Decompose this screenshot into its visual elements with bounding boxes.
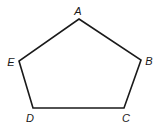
diagram-canvas: A B C D E (0, 0, 159, 126)
vertex-label-d: D (26, 112, 34, 124)
pentagon-diagram: A B C D E (0, 0, 159, 126)
pentagon-shape (19, 19, 141, 108)
vertex-label-a: A (73, 5, 81, 17)
vertex-label-b: B (145, 55, 152, 67)
vertex-label-c: C (122, 112, 130, 124)
vertex-label-e: E (7, 56, 15, 68)
